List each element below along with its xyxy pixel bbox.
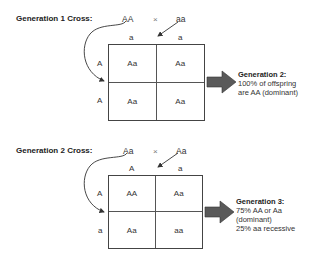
row-allele: A (97, 189, 102, 198)
generation2-title: Generation 2 Cross: (16, 146, 92, 155)
result-arrow-icon (205, 201, 234, 223)
row-allele: A (97, 96, 102, 105)
punnett-cell: aa (156, 212, 203, 248)
parent1-genotype: Aa (123, 146, 133, 156)
punnett-cell: Aa (157, 83, 205, 121)
column-allele: a (178, 164, 182, 173)
parent2-genotype: aa (176, 14, 185, 24)
result-line: 75% AA or Aa (236, 206, 295, 215)
punnett-cell: Aa (109, 212, 156, 248)
column-allele: A (129, 164, 134, 173)
punnett-cell: Aa (156, 176, 203, 212)
straight-arrow-icon (158, 153, 178, 167)
row-allele: A (97, 59, 102, 68)
punnett-cell: Aa (109, 45, 157, 83)
result-arrow-icon (207, 71, 236, 93)
cross-symbol: × (153, 147, 158, 156)
generation2-result: Generation 2: 100% of offspring are AA (… (238, 70, 298, 97)
column-allele: a (178, 33, 182, 42)
result-line: 100% of offspring (238, 79, 298, 88)
straight-arrow-icon (158, 22, 178, 36)
punnett-cell: Aa (157, 45, 205, 83)
punnett-cell: AA (109, 176, 156, 212)
parent2-genotype: Aa (176, 146, 186, 156)
parent1-genotype: AA (122, 14, 133, 24)
result-line: (dominant) (236, 215, 295, 224)
column-allele: a (129, 33, 133, 42)
result-line: 25% aa recessive (236, 224, 295, 233)
result-title: Generation 2: (238, 70, 298, 79)
punnett-square-gen2: AA Aa Aa aa (108, 175, 203, 249)
punnett-square-gen1: Aa Aa Aa Aa (108, 44, 205, 121)
cross-symbol: × (153, 15, 158, 24)
row-allele: a (98, 226, 102, 235)
result-title: Generation 3: (236, 197, 295, 206)
generation1-title: Generation 1 Cross: (16, 14, 92, 23)
punnett-cell: Aa (109, 83, 157, 121)
generation3-result: Generation 3: 75% AA or Aa (dominant) 25… (236, 197, 295, 233)
result-line: are AA (dominant) (238, 88, 298, 97)
